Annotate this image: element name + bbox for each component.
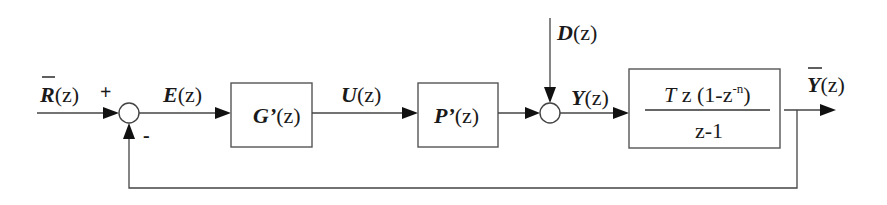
plant-label: P’(z) bbox=[433, 103, 479, 128]
hold-denominator: z-1 bbox=[695, 118, 723, 143]
feedback-arrow-icon bbox=[123, 123, 135, 139]
plant-output-label: Y(z) bbox=[571, 85, 609, 110]
control-label: U(z) bbox=[341, 82, 381, 107]
control-arrow-icon bbox=[402, 107, 418, 119]
plant-output-arrow-icon bbox=[613, 107, 629, 119]
reference-label: R(z) bbox=[39, 77, 79, 107]
svg-text:Y(z): Y(z) bbox=[807, 72, 845, 97]
plus-sign: + bbox=[100, 81, 111, 103]
minus-sign: - bbox=[143, 124, 150, 146]
svg-text:R(z): R(z) bbox=[39, 82, 79, 107]
disturbance-arrow-icon bbox=[544, 87, 556, 103]
disturbance-label: D(z) bbox=[556, 20, 597, 45]
block-diagram: R(z) + - E(z) G’(z) U(z) P’(z) D(z) Y(z) bbox=[0, 0, 887, 205]
input-arrow-icon bbox=[103, 107, 119, 119]
output-label: Y(z) bbox=[807, 68, 845, 97]
output-arrow-icon bbox=[820, 104, 836, 116]
error-arrow-icon bbox=[215, 107, 231, 119]
controller-label: G’(z) bbox=[253, 103, 301, 128]
plant-out-arrow-icon bbox=[525, 107, 540, 119]
error-label: E(z) bbox=[162, 82, 202, 107]
summing-junction-1 bbox=[119, 103, 139, 123]
summing-junction-2 bbox=[540, 103, 560, 123]
